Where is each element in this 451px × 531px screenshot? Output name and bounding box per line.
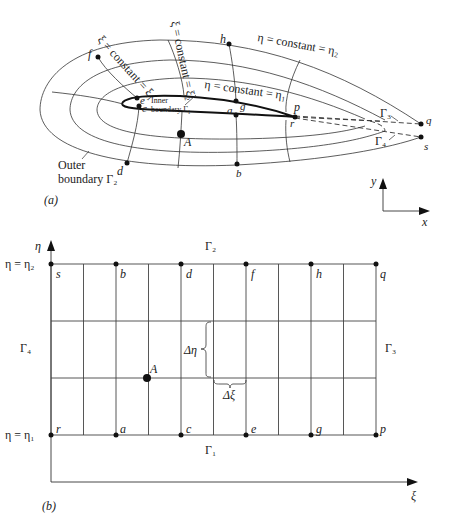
point-label-q: q (426, 114, 432, 126)
xi-line-a (236, 115, 237, 164)
y-axis-arrow-icon (379, 178, 387, 189)
label-gamma2: Γ₂ (205, 239, 216, 253)
gamma3-arrow (391, 116, 398, 121)
point-label-p: p (293, 100, 300, 114)
point-label-A: A (183, 135, 192, 149)
label-eta-const-2: η = constant = η₂ (256, 30, 339, 58)
delta-eta-brace (201, 322, 211, 377)
label-delta-xi: Δξ (222, 388, 236, 402)
label-xi-const-1: ξ = constant = ξ₁ (95, 33, 159, 102)
xi-line-2-lower (178, 112, 182, 168)
grid-point-b: b (120, 267, 126, 281)
label-gamma3: Γ₃ (385, 341, 396, 355)
point-label-b: b (236, 167, 242, 179)
label-gamma4: Γ₄ (20, 341, 31, 355)
caption-a: (a) (44, 193, 58, 207)
grid-point-d: d (186, 267, 193, 281)
point-label-s: s (424, 140, 428, 152)
outer-boundary-arrow (82, 151, 89, 159)
label-gamma1: Γ₁ (205, 443, 216, 457)
xi-axis-arrow-icon (407, 478, 418, 486)
grid-point-c: c (186, 422, 192, 436)
label-delta-eta: Δη (183, 343, 197, 357)
xi-line-1-lower (127, 106, 139, 163)
point-label-g: g (240, 100, 246, 112)
axis-label-x: x (421, 215, 428, 229)
grid-point-a: a (120, 422, 126, 436)
axis-label-xi: ξ (411, 489, 417, 503)
grid-point-A: A (149, 362, 158, 376)
point-label-f: f (88, 47, 93, 61)
label-inner-boundary-1: Inner (151, 96, 168, 105)
wake-cut-upper (295, 116, 421, 124)
axis-label-eta: η (35, 239, 41, 253)
grid-point-e: e (251, 422, 257, 436)
point-label-c: c (142, 102, 147, 114)
point-label-r: r (290, 117, 295, 129)
point-label-a: a (227, 104, 233, 116)
xi-line-left (52, 92, 123, 104)
delta-xi-brace (214, 380, 246, 388)
grid-point-r: r (56, 422, 61, 436)
axis-label-y: y (370, 174, 377, 188)
wake-cut-inner (295, 117, 380, 121)
computational-plane: η ξ s b d f h q (5, 239, 418, 513)
label-eta-eta1: η = η₁ (5, 428, 35, 442)
grid-point-s: s (56, 267, 61, 281)
grid-point-h: h (316, 267, 322, 281)
wake-cut-mid (370, 121, 385, 131)
grid-point-q: q (380, 267, 386, 281)
xy-axes: y x (370, 174, 430, 229)
label-eta-eta2: η = η₂ (5, 257, 35, 271)
x-axis-arrow-icon (419, 207, 430, 215)
label-inner-boundary-2: boundary Γ₁ (151, 105, 191, 114)
physical-plane: f h e c g a p r A d b q s ξ = constant =… (40, 20, 432, 229)
computational-grid (51, 264, 376, 435)
wake-cut-lower (295, 118, 421, 137)
point-label-d: d (117, 164, 124, 178)
point-label-h: h (220, 32, 226, 46)
caption-b: (b) (42, 499, 56, 513)
gamma4-arrow (389, 135, 395, 140)
grid-point-f: f (251, 267, 256, 281)
grid-point-p: p (379, 422, 386, 436)
label-gamma3: Γ₃ (380, 106, 391, 120)
grid-point-g: g (316, 422, 322, 436)
label-outer-boundary-1: Outer (58, 158, 85, 172)
label-outer-boundary-2: boundary Γ₂ (58, 172, 117, 186)
grid-transformation-diagram: f h e c g a p r A d b q s ξ = constant =… (0, 0, 451, 531)
eta-axis-arrow-icon (47, 240, 55, 251)
label-gamma4: Γ₄ (375, 134, 386, 148)
